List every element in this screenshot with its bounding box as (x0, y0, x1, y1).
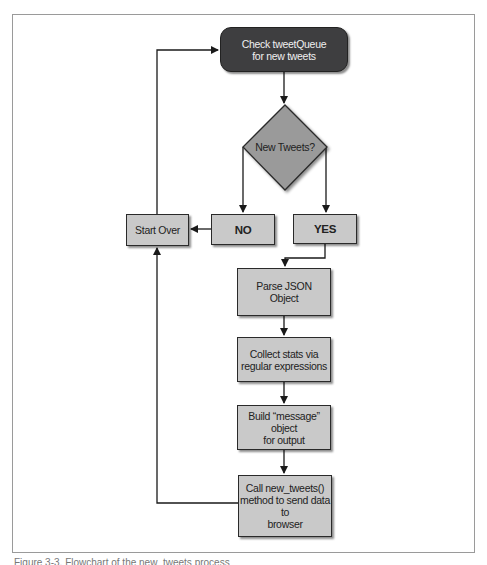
node-call-new-tweets: Call new_tweets() method to send data to… (238, 475, 332, 537)
node-label-line: Parse JSON (256, 280, 311, 292)
node-label-line: for new tweets (242, 50, 327, 62)
edge-startover-to-check (157, 50, 218, 214)
node-label-line: Object (256, 292, 311, 304)
edge-call-to-startover (157, 248, 238, 503)
node-collect-stats: Collect stats via regular expressions (237, 337, 331, 382)
node-label-line: Check tweetQueue (242, 38, 327, 50)
node-label: NO (235, 224, 252, 236)
node-label-line: method to send data to (239, 494, 331, 518)
node-label-line: regular expressions (241, 360, 327, 372)
node-label-line: browser (239, 518, 331, 530)
edge-yes-to-parse (285, 244, 325, 266)
node-no: NO (211, 214, 275, 245)
node-label-line: Call new_tweets() (239, 482, 331, 494)
node-build-message: Build “message” object for output (237, 405, 331, 450)
node-label: Start Over (135, 224, 180, 236)
node-yes: YES (293, 214, 357, 244)
node-label: YES (314, 223, 336, 235)
node-label-line: Build “message” object (238, 410, 330, 434)
node-parse-json: Parse JSON Object (237, 268, 331, 316)
node-check-tweetqueue: Check tweetQueue for new tweets (220, 27, 348, 72)
node-label-line: Collect stats via (241, 348, 327, 360)
node-label-line: for output (238, 434, 330, 446)
decision-label: New Tweets? (243, 141, 327, 153)
node-start-over: Start Over (126, 214, 189, 246)
figure-caption: Figure 3-3. Flowchart of the new_tweets … (14, 557, 230, 565)
